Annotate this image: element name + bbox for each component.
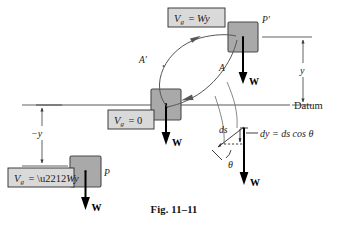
- weight-arrowhead-detail: [240, 172, 249, 185]
- label-box-vg-negative: Vg = \u2212Wy: [8, 168, 79, 187]
- weight-arrowhead-upper: [239, 72, 248, 84]
- weight-arrowhead-datum: [162, 132, 171, 145]
- dim-negy-label: −y: [31, 128, 43, 139]
- path-a-prime-arrowhead: [190, 36, 201, 43]
- detail-theta-arc: [226, 150, 231, 158]
- label-p-prime: P′: [261, 15, 271, 25]
- label-box-vg-zero: Vg = 0: [108, 110, 154, 129]
- label-a: A: [218, 63, 225, 73]
- figure-caption: Fig. 11–11: [0, 204, 348, 215]
- dimension-negative-y-group: −y: [22, 105, 68, 166]
- energy-datum-diagram: Datum P′ W W P W: [0, 0, 348, 234]
- label-p: P: [103, 168, 110, 178]
- label-a-prime: A′: [138, 55, 148, 65]
- weight-label-upper: W: [249, 76, 259, 87]
- label-box-vg-positive: Vg = Wy: [168, 8, 225, 27]
- detail-theta-leg: [212, 150, 222, 160]
- label-ds: ds: [219, 125, 228, 135]
- block-upper-group: P′ W: [228, 15, 271, 87]
- label-dy-equation: dy = ds cos θ: [260, 128, 313, 139]
- block-datum-group: W: [151, 89, 182, 148]
- dim-y-label: y: [299, 65, 305, 76]
- weight-label-datum: W: [172, 137, 182, 148]
- path-a-arrowhead: [181, 95, 194, 101]
- dimension-y-group: y: [262, 37, 312, 105]
- figure-container: Datum P′ W W P W: [0, 0, 348, 234]
- weight-label-detail: W: [250, 177, 260, 188]
- detail-leader-curve-2: [215, 96, 224, 144]
- label-theta: θ: [228, 159, 233, 170]
- path-a-prime-tick: [163, 65, 165, 67]
- ds-dy-detail-group: θ ds dy = ds cos θ W: [212, 125, 313, 188]
